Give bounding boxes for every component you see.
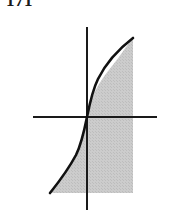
shaded-area [50,38,133,193]
shaded-area-fill [50,38,133,193]
cube-root-plot [0,0,185,216]
figure-container: 171 [0,0,185,216]
